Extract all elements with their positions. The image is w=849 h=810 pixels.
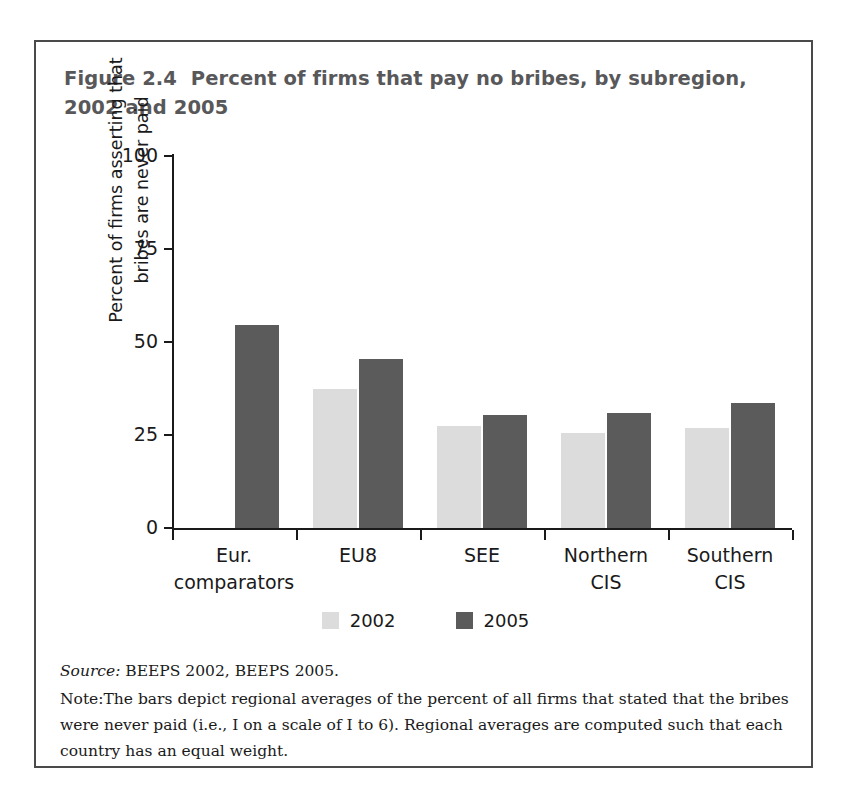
y-tick-label: 75 xyxy=(98,237,158,259)
x-category-label-line: Southern xyxy=(645,542,815,569)
y-axis-title-line-2: bribes are never paid xyxy=(129,25,155,355)
bar-2002-see xyxy=(437,426,481,528)
bar-2005-eur-comparators xyxy=(235,325,279,528)
y-tick-mark xyxy=(164,248,173,250)
figure-footnotes: Source: BEEPS 2002, BEEPS 2005. Note:The… xyxy=(60,658,795,764)
x-tick-mark xyxy=(544,530,546,540)
x-tick-mark xyxy=(296,530,298,540)
bar-2005-northern-cis xyxy=(607,413,651,528)
x-tick-mark xyxy=(420,530,422,540)
note-text: The bars depict regional averages of the… xyxy=(60,690,789,760)
figure-frame: Figure 2.4 Percent of firms that pay no … xyxy=(34,40,813,768)
y-tick-mark xyxy=(164,155,173,157)
bar-2005-southern-cis xyxy=(731,403,775,528)
x-tick-mark xyxy=(172,530,174,540)
legend-item-2005: 2005 xyxy=(456,610,530,631)
x-category-label-line: CIS xyxy=(645,569,815,596)
chart-legend: 20022005 xyxy=(36,610,815,631)
bar-2002-eu8 xyxy=(313,389,357,529)
bar-2002-northern-cis xyxy=(561,433,605,528)
note-line: Note:The bars depict regional averages o… xyxy=(60,686,795,764)
y-axis-title: Percent of firms asserting that bribes a… xyxy=(103,25,159,355)
source-text: BEEPS 2002, BEEPS 2005. xyxy=(120,662,339,680)
x-category-label-line: comparators xyxy=(149,569,319,596)
chart-plot-area: Percent of firms asserting that bribes a… xyxy=(36,42,815,622)
y-tick-label: 100 xyxy=(98,144,158,166)
bar-2005-eu8 xyxy=(359,359,403,528)
note-label: Note: xyxy=(60,690,104,708)
bar-2002-southern-cis xyxy=(685,428,729,528)
y-tick-mark xyxy=(164,341,173,343)
bar-2005-see xyxy=(483,415,527,528)
x-axis-line xyxy=(172,528,792,530)
legend-swatch-2005 xyxy=(456,612,473,629)
legend-label-2005: 2005 xyxy=(484,610,530,631)
legend-item-2002: 2002 xyxy=(322,610,396,631)
y-tick-mark xyxy=(164,434,173,436)
y-tick-mark xyxy=(164,527,173,529)
x-tick-mark xyxy=(792,530,794,540)
legend-label-2002: 2002 xyxy=(350,610,396,631)
x-category-label: SouthernCIS xyxy=(645,542,815,596)
source-line: Source: BEEPS 2002, BEEPS 2005. xyxy=(60,658,795,684)
y-tick-label: 50 xyxy=(98,330,158,352)
legend-swatch-2002 xyxy=(322,612,339,629)
x-tick-mark xyxy=(668,530,670,540)
y-tick-label: 0 xyxy=(98,516,158,538)
source-label: Source: xyxy=(60,662,120,680)
y-axis-title-line-1: Percent of firms asserting that xyxy=(103,25,129,355)
y-tick-label: 25 xyxy=(98,423,158,445)
